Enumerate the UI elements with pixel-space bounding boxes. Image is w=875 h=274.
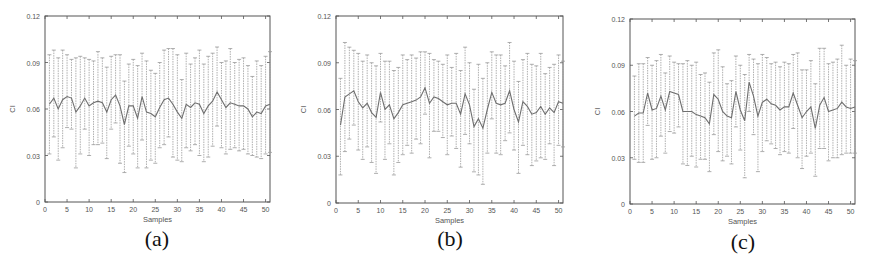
mean-ci-line bbox=[49, 92, 270, 125]
y-tick-label: 0 bbox=[621, 201, 625, 208]
x-tick-label: 10 bbox=[85, 206, 93, 213]
x-tick-label: 25 bbox=[151, 206, 159, 213]
x-tick-label: 25 bbox=[736, 208, 744, 215]
y-tick-label: 0.09 bbox=[317, 60, 331, 67]
y-tick-label: 0.09 bbox=[26, 60, 40, 67]
x-tick-label: 35 bbox=[781, 208, 789, 215]
error-bars bbox=[632, 45, 857, 178]
subfigure-label-b: (b) bbox=[420, 226, 480, 252]
x-tick-label: 0 bbox=[628, 208, 632, 215]
x-tick-label: 5 bbox=[356, 207, 360, 214]
x-tick-label: 40 bbox=[510, 207, 518, 214]
x-tick-label: 50 bbox=[555, 207, 563, 214]
y-tick-label: 0.06 bbox=[611, 109, 625, 116]
x-tick-label: 5 bbox=[65, 206, 69, 213]
chart-panel-b: 00.030.060.090.1205101520253035404550Sam… bbox=[290, 0, 580, 274]
x-tick-label: 30 bbox=[758, 208, 766, 215]
subfigure-label-a: (a) bbox=[127, 226, 187, 252]
x-tick-label: 45 bbox=[532, 207, 540, 214]
x-axis-label: Samples bbox=[435, 216, 464, 225]
y-tick-label: 0.12 bbox=[26, 13, 40, 20]
x-tick-label: 5 bbox=[650, 208, 654, 215]
x-tick-label: 25 bbox=[443, 207, 451, 214]
chart-panel-a: 00.030.060.090.1205101520253035404550Sam… bbox=[0, 0, 290, 274]
y-tick-label: 0.09 bbox=[611, 62, 625, 69]
y-tick-label: 0.03 bbox=[611, 155, 625, 162]
x-tick-label: 30 bbox=[466, 207, 474, 214]
x-tick-label: 50 bbox=[847, 208, 855, 215]
x-tick-label: 45 bbox=[240, 206, 248, 213]
x-tick-label: 10 bbox=[377, 207, 385, 214]
x-axis-label: Samples bbox=[728, 217, 757, 226]
subfigure-label-c: (c) bbox=[713, 229, 773, 255]
x-tick-label: 35 bbox=[196, 206, 204, 213]
x-tick-label: 15 bbox=[107, 206, 115, 213]
x-tick-label: 0 bbox=[43, 206, 47, 213]
x-tick-label: 10 bbox=[670, 208, 678, 215]
x-tick-label: 50 bbox=[262, 206, 270, 213]
y-tick-label: 0.12 bbox=[317, 13, 331, 20]
y-tick-label: 0.06 bbox=[26, 106, 40, 113]
x-tick-label: 15 bbox=[399, 207, 407, 214]
y-tick-label: 0 bbox=[327, 200, 331, 207]
x-tick-label: 0 bbox=[334, 207, 338, 214]
plot-frame bbox=[630, 19, 855, 204]
chart-panel-c: 00.030.060.090.1205101520253035404550Sam… bbox=[580, 0, 875, 274]
x-axis-label: Samples bbox=[143, 215, 172, 224]
x-tick-label: 30 bbox=[173, 206, 181, 213]
x-tick-label: 45 bbox=[825, 208, 833, 215]
y-tick-label: 0.12 bbox=[611, 16, 625, 23]
y-tick-label: 0.03 bbox=[26, 153, 40, 160]
error-bars bbox=[47, 47, 272, 173]
x-tick-label: 40 bbox=[218, 206, 226, 213]
y-tick-label: 0.03 bbox=[317, 153, 331, 160]
y-tick-label: 0.06 bbox=[317, 107, 331, 114]
y-axis-label: CI bbox=[299, 106, 308, 114]
y-tick-label: 0 bbox=[36, 199, 40, 206]
x-tick-label: 20 bbox=[421, 207, 429, 214]
x-tick-label: 15 bbox=[692, 208, 700, 215]
x-tick-label: 35 bbox=[488, 207, 496, 214]
x-tick-label: 40 bbox=[803, 208, 811, 215]
y-axis-label: CI bbox=[593, 108, 602, 116]
x-tick-label: 20 bbox=[714, 208, 722, 215]
x-tick-label: 20 bbox=[129, 206, 137, 213]
y-axis-label: CI bbox=[8, 105, 17, 113]
